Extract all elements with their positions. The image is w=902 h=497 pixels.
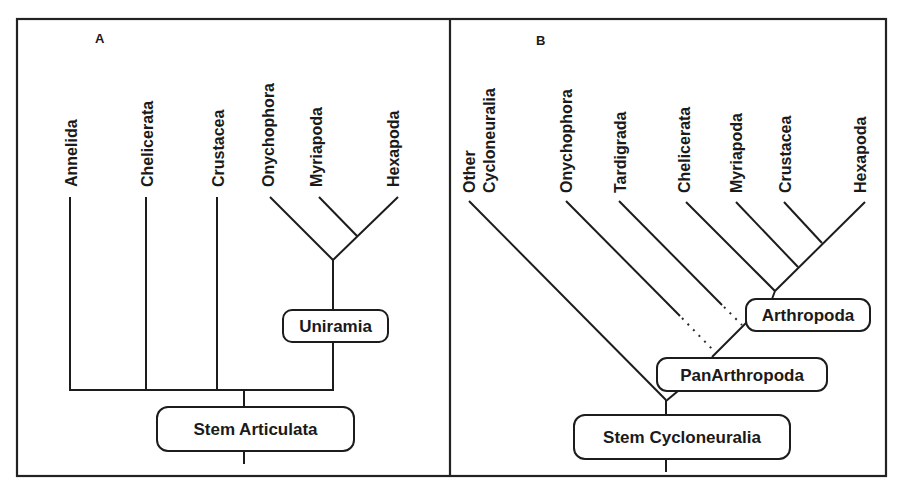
node-panarthropoda: PanArthropoda <box>657 358 827 391</box>
branch-arthropoda-stem <box>772 291 775 299</box>
node-stem-articulata-label: Stem Articulata <box>193 420 318 439</box>
branch-onychophora <box>566 201 680 316</box>
node-uniramia-label: Uniramia <box>299 317 372 336</box>
taxon-chelicerata: Chelicerata <box>139 101 156 187</box>
branch-arthropoda-to-panarthropoda <box>712 322 747 357</box>
branch-hexapoda <box>333 197 398 260</box>
branch-other-cycloneuralia <box>469 201 666 400</box>
taxon-tardigrada: Tardigrada <box>612 111 629 193</box>
taxon-onychophora: Onychophora <box>558 89 575 193</box>
branch-chelicerata <box>686 202 775 291</box>
taxon-crustacea: Crustacea <box>210 110 227 187</box>
panel-a-letter: A <box>95 31 105 46</box>
panel-b: B Other Cycloneuralia Onychophora Tardig… <box>461 33 870 472</box>
taxon-chelicerata: Chelicerata <box>676 107 693 193</box>
branch-panarthropoda-to-root <box>666 391 678 401</box>
branch-onychophora <box>270 197 333 260</box>
taxon-myriapoda: Myriapoda <box>308 107 325 187</box>
taxon-crustacea: Crustacea <box>777 116 794 193</box>
node-stem-cycloneuralia: Stem Cycloneuralia <box>574 415 790 459</box>
node-stem-articulata: Stem Articulata <box>157 407 354 451</box>
branch-onychophora-uncertain <box>682 318 713 350</box>
taxon-other-cycloneuralia-line1: Other <box>461 150 478 193</box>
figure-frame <box>17 19 886 476</box>
node-arthropoda: Arthropoda <box>746 299 870 331</box>
taxon-annelida: Annelida <box>63 119 80 187</box>
taxon-hexapoda: Hexapoda <box>385 110 402 187</box>
phylogeny-figure: A Annelida Chelicerata Crustacea Onychop… <box>0 0 902 497</box>
node-stem-cycloneuralia-label: Stem Cycloneuralia <box>603 428 761 447</box>
taxon-myriapoda: Myriapoda <box>728 113 745 193</box>
branch-tardigrada-uncertain <box>724 307 742 325</box>
taxon-onychophora: Onychophora <box>260 83 277 187</box>
taxon-other-cycloneuralia-line2: Cycloneuralia <box>481 88 498 193</box>
node-uniramia: Uniramia <box>283 310 388 342</box>
taxon-hexapoda: Hexapoda <box>852 116 869 193</box>
panel-b-letter: B <box>536 33 545 48</box>
branch-tardigrada <box>619 201 722 305</box>
branch-hexapoda-mandibulata <box>775 202 865 291</box>
branch-crustacea <box>784 202 822 243</box>
branch-myriapoda <box>736 202 798 267</box>
branch-myriapoda <box>319 197 357 236</box>
node-panarthropoda-label: PanArthropoda <box>680 366 804 385</box>
node-arthropoda-label: Arthropoda <box>762 306 855 325</box>
outer-border <box>17 19 886 476</box>
panel-a: A Annelida Chelicerata Crustacea Onychop… <box>63 31 402 464</box>
